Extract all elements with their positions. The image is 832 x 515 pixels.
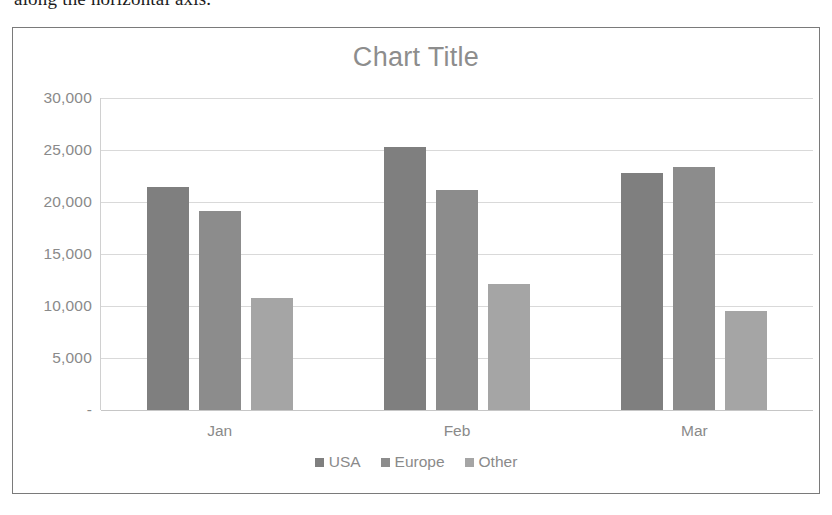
y-axis-tick-label: 5,000 — [52, 349, 92, 367]
plot-area: 30,00025,00020,00015,00010,000 5,000- Ja… — [101, 98, 813, 410]
y-axis-tick-label: 30,000 — [43, 89, 92, 107]
legend-label: Europe — [395, 453, 445, 471]
legend-item-europe[interactable]: Europe — [381, 453, 445, 471]
page-body-text: along the horizontal axis. — [14, 0, 514, 14]
bar-usa-feb[interactable] — [384, 147, 426, 410]
y-axis-tick-label: 15,000 — [43, 245, 92, 263]
x-axis-label-jan: Jan — [207, 422, 232, 440]
y-axis-tick-label: 20,000 — [43, 193, 92, 211]
gridline — [101, 98, 813, 99]
gridline — [101, 150, 813, 151]
y-axis-tick-label: 10,000 — [43, 297, 92, 315]
bar-other-feb[interactable] — [488, 284, 530, 410]
bar-europe-feb[interactable] — [436, 190, 478, 410]
legend-item-other[interactable]: Other — [465, 453, 518, 471]
chart-container[interactable]: Chart Title 30,00025,00020,00015,00010,0… — [12, 27, 820, 494]
chart-legend[interactable]: USAEuropeOther — [13, 453, 819, 471]
legend-swatch-icon — [465, 458, 474, 467]
chart-title: Chart Title — [13, 42, 819, 73]
legend-swatch-icon — [381, 458, 390, 467]
bar-europe-jan[interactable] — [199, 211, 241, 410]
x-axis-label-mar: Mar — [681, 422, 708, 440]
gridline — [101, 410, 813, 411]
y-axis-tick-label: 25,000 — [43, 141, 92, 159]
legend-swatch-icon — [315, 458, 324, 467]
bar-other-jan[interactable] — [251, 298, 293, 410]
bar-usa-mar[interactable] — [621, 173, 663, 410]
legend-label: USA — [329, 453, 361, 471]
legend-item-usa[interactable]: USA — [315, 453, 361, 471]
bar-other-mar[interactable] — [725, 311, 767, 410]
bar-usa-jan[interactable] — [147, 187, 189, 410]
y-axis-tick-label: - — [87, 401, 92, 419]
legend-label: Other — [479, 453, 518, 471]
x-axis-label-feb: Feb — [444, 422, 471, 440]
bar-europe-mar[interactable] — [673, 167, 715, 410]
